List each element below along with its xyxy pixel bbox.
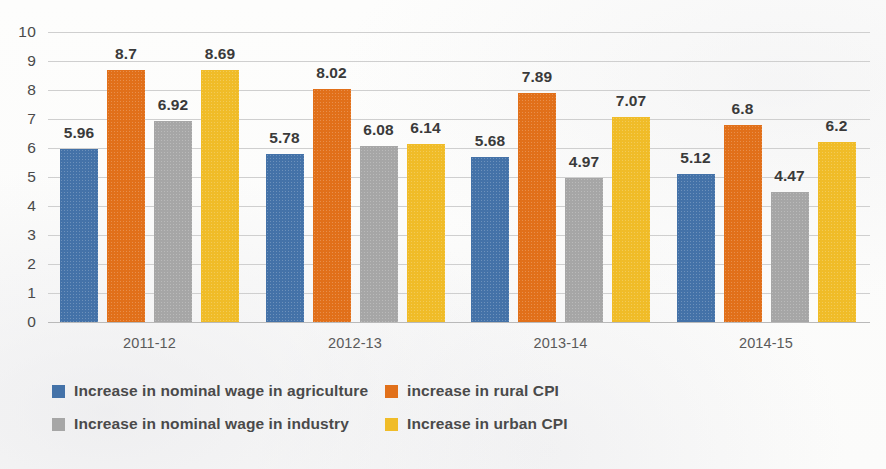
gridline [48,32,870,33]
legend-item[interactable]: increase in rural CPI [385,382,559,400]
bar [360,146,398,322]
y-axis-tick-label: 5 [0,168,36,186]
legend-label: Increase in nominal wage in industry [74,415,349,433]
bar-value-label: 8.69 [189,45,251,63]
bar-value-label: 6.92 [142,96,204,114]
x-axis-category-label: 2013-14 [501,335,621,351]
bar [518,93,556,322]
bar [266,154,304,322]
bar-value-label: 7.07 [600,92,662,110]
bar [154,121,192,322]
x-axis-category-label: 2014-15 [706,335,826,351]
legend-swatch-icon [52,385,65,398]
bar-value-label: 5.96 [48,124,110,142]
legend-label: Increase in urban CPI [407,415,568,433]
legend-swatch-icon [52,418,65,431]
y-axis-tick-label: 4 [0,197,36,215]
y-axis-tick-label: 9 [0,52,36,70]
gridline [48,119,870,120]
bar [313,89,351,322]
bar-value-label: 6.8 [712,100,774,118]
bar-value-label: 8.02 [301,64,363,82]
y-axis-tick-label: 3 [0,226,36,244]
bar-value-label: 4.97 [553,153,615,171]
y-axis-tick-label: 2 [0,255,36,273]
bar [818,142,856,322]
bar-value-label: 6.14 [395,119,457,137]
bar-value-label: 5.68 [459,132,521,150]
bar-value-label: 8.7 [95,45,157,63]
bar-value-label: 6.2 [806,117,868,135]
axis-baseline [48,322,870,323]
legend-label: increase in rural CPI [407,382,559,400]
bar [471,157,509,322]
bar [565,178,603,322]
legend-swatch-icon [385,385,398,398]
y-axis-tick-label: 0 [0,313,36,331]
bar-value-label: 7.89 [506,68,568,86]
plot-area [48,32,870,322]
x-axis-category-label: 2011-12 [90,335,210,351]
bar [771,192,809,322]
y-axis-tick-label: 1 [0,284,36,302]
bar-value-label: 5.12 [665,149,727,167]
legend-item[interactable]: Increase in nominal wage in industry [52,415,349,433]
bar [677,174,715,322]
legend-label: Increase in nominal wage in agriculture [74,382,368,400]
bar [724,125,762,322]
y-axis-tick-label: 7 [0,110,36,128]
bar [407,144,445,322]
y-axis-tick-label: 8 [0,81,36,99]
y-axis-tick-label: 10 [0,23,36,41]
bar-value-label: 5.78 [254,129,316,147]
bar-value-label: 4.47 [759,167,821,185]
bar [107,70,145,322]
grouped-bar-chart: 012345678910 5.968.76.928.692011-125.788… [0,0,886,469]
legend-item[interactable]: Increase in urban CPI [385,415,568,433]
gridline [48,90,870,91]
bar [612,117,650,322]
bar [60,149,98,322]
legend-swatch-icon [385,418,398,431]
gridline [48,61,870,62]
x-axis-category-label: 2012-13 [295,335,415,351]
legend-item[interactable]: Increase in nominal wage in agriculture [52,382,368,400]
bar [201,70,239,322]
y-axis-tick-label: 6 [0,139,36,157]
